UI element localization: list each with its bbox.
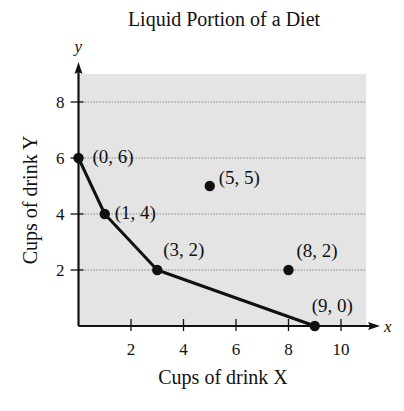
point-label: (9, 0) bbox=[312, 295, 353, 317]
x-tick-label: 2 bbox=[127, 340, 136, 359]
x-tick-label: 6 bbox=[232, 340, 241, 359]
data-point bbox=[152, 265, 162, 275]
point-label: (0, 6) bbox=[93, 146, 134, 168]
x-tick-label: 10 bbox=[333, 340, 350, 359]
point-label: (8, 2) bbox=[297, 240, 338, 262]
point-label: (1, 4) bbox=[115, 202, 156, 224]
data-point bbox=[310, 321, 320, 331]
shaded-region-rect bbox=[79, 74, 367, 326]
x-tick-label: 8 bbox=[284, 340, 293, 359]
point-label: (5, 5) bbox=[219, 167, 260, 189]
x-axis-label: Cups of drink X bbox=[78, 366, 368, 389]
shaded-region bbox=[79, 74, 367, 326]
y-axis-label: Cups of drink Y bbox=[19, 136, 42, 265]
y-tick-label: 4 bbox=[56, 205, 65, 224]
y-tick-label: 6 bbox=[56, 149, 65, 168]
y-tick-label: 2 bbox=[56, 261, 65, 280]
data-point bbox=[205, 181, 215, 191]
chart-plot: xy2468102468 (0, 6)(1, 4)(3, 2)(5, 5)(8,… bbox=[0, 0, 404, 411]
x-axis-letter: x bbox=[383, 317, 392, 336]
data-point bbox=[283, 265, 293, 275]
y-axis-letter: y bbox=[73, 37, 83, 56]
point-label: (3, 2) bbox=[163, 239, 204, 261]
data-point bbox=[73, 153, 83, 163]
x-tick-label: 4 bbox=[179, 340, 188, 359]
y-tick-label: 8 bbox=[56, 93, 65, 112]
data-point bbox=[100, 209, 110, 219]
